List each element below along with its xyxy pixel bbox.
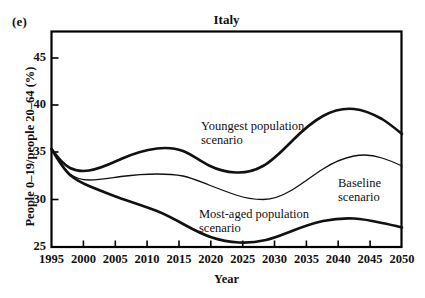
figure-panel: (e) Italy People 0–19/people 20–64 (%) Y… <box>0 0 425 298</box>
series-label-most-aged: Most-aged population scenario <box>199 208 309 235</box>
y-tick-label-40: 40 <box>16 98 46 111</box>
y-tick-label-45: 45 <box>16 51 46 64</box>
y-tick-label-30: 30 <box>16 193 46 206</box>
series-label-youngest: Youngest population scenario <box>201 120 304 147</box>
y-tick-label-35: 35 <box>16 145 46 158</box>
y-tick-label-25: 25 <box>16 240 46 253</box>
series-label-baseline: Baseline scenario <box>338 177 381 204</box>
x-tick-label-2050: 2050 <box>382 253 422 266</box>
